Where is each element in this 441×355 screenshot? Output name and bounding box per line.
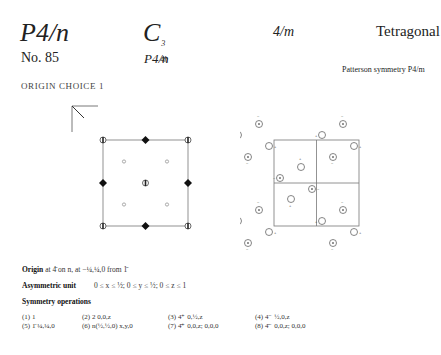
asymmetric-unit-text: 0 ≤ x ≤ ½; 0 ≤ y ≤ ½; 0 ≤ z ≤ 1 (94, 281, 186, 290)
space-group-number: No. 85 (21, 50, 59, 66)
origin-line: Origin at 4̄ on n, at −¼,¼,0 from 1̄ (22, 265, 127, 274)
svg-text:+: + (359, 230, 362, 235)
svg-text:−: − (331, 161, 334, 166)
point-group: 4/m (273, 24, 294, 40)
svg-text:+: + (315, 219, 318, 224)
corner-fourfold-inversion-icon (100, 137, 191, 229)
svg-text:−: − (257, 114, 260, 119)
svg-text:−: − (257, 200, 260, 205)
origin-choice: ORIGIN CHOICE 1 (21, 81, 104, 91)
schoenflies-symbol: C34h (143, 18, 174, 48)
symmetry-op: (2) 2 0,0,z (82, 313, 111, 321)
symmetry-op: (8) 4̄⁻ 0,0,z; 0,0,0 (255, 322, 305, 330)
symmetry-operations-heading: Symmetry operations (22, 297, 91, 306)
symmetry-op: (4) 4⁻ ½,0,z (255, 313, 290, 321)
svg-text:+: + (299, 156, 302, 161)
svg-text:+: + (289, 203, 292, 208)
svg-text:+: + (274, 144, 277, 149)
schoenflies-base: C (143, 18, 160, 47)
svg-text:+: + (359, 144, 362, 149)
svg-text:−: − (273, 176, 276, 181)
symmetry-op: (5) 1̄ ¼,¼,0 (22, 322, 55, 330)
svg-text:−: − (331, 247, 334, 252)
origin-label: Origin (22, 265, 43, 274)
svg-text:+: + (274, 230, 277, 235)
crystal-system: Tetragonal (376, 23, 440, 40)
svg-text:−: − (317, 187, 320, 192)
symmetry-op: (6) n(½,½,0) x,y,0 (82, 322, 133, 330)
asymmetric-unit-label: Asymmetric unit (22, 281, 76, 290)
patterson-symmetry: Patterson symmetry P4/m (342, 65, 425, 74)
origin-text: at 4̄ on n, at −¼,¼,0 from 1̄ (45, 265, 127, 274)
svg-text:−: − (341, 114, 344, 119)
symmetry-op: (1) 1 (22, 313, 35, 321)
hermann-mauguin-symbol: P4/n (20, 18, 69, 48)
short-symbol: P4/n (144, 51, 169, 67)
general-position-circle-icon (240, 121, 358, 247)
svg-text:−: − (246, 161, 249, 166)
general-position-diagram: −− ++ ++ −− + −− + −− ++ ++ −− (240, 110, 440, 270)
svg-text:−: − (341, 200, 344, 205)
asymmetric-unit-line: Asymmetric unit0 ≤ x ≤ ½; 0 ≤ y ≤ ½; 0 ≤… (22, 281, 186, 290)
symmetry-op: (3) 4⁺ 0,½,z (168, 313, 203, 321)
symmetry-element-diagram (95, 132, 197, 234)
svg-text:−: − (246, 247, 249, 252)
svg-text:+: + (315, 133, 318, 138)
symmetry-op: (7) 4̄⁺ 0,0,z; 0,0,0 (168, 322, 218, 330)
schoenflies-sup: 3 (161, 39, 165, 48)
symmetry-operations-label: Symmetry operations (22, 297, 91, 306)
